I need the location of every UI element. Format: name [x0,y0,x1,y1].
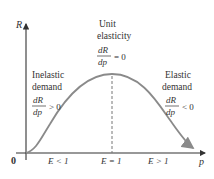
svg-text:elasticity: elasticity [97,31,132,41]
svg-text:< 0: < 0 [182,102,194,112]
svg-text:Elastic: Elastic [165,70,191,80]
svg-text:demand: demand [32,82,62,92]
revenue-elasticity-diagram: R p 0 E < 1 E = 1 E > 1 Unit elasticity … [0,0,214,179]
label-e-equal-1: E = 1 [100,156,122,166]
svg-text:dR: dR [98,45,109,55]
unit-elasticity-annotation: Unit elasticity dR dp = 0 [97,19,132,67]
y-axis-label: R [15,19,22,30]
svg-text:Inelastic: Inelastic [32,70,64,80]
svg-text:Unit: Unit [99,19,116,29]
svg-text:= 0: = 0 [114,52,126,62]
svg-text:dp: dp [33,107,43,117]
elastic-demand-annotation: Elastic demand dR dp < 0 [162,70,194,117]
label-e-greater-1: E > 1 [147,156,169,166]
svg-text:> 0: > 0 [49,102,61,112]
svg-text:dp: dp [166,107,176,117]
svg-text:dR: dR [33,95,44,105]
inelastic-demand-annotation: Inelastic demand dR dp > 0 [32,70,64,117]
svg-text:dR: dR [166,95,177,105]
label-e-less-1: E < 1 [47,156,69,166]
svg-text:demand: demand [162,82,192,92]
origin-label: 0 [11,155,16,166]
x-axis-label: p [198,156,204,167]
svg-text:dp: dp [98,57,108,67]
